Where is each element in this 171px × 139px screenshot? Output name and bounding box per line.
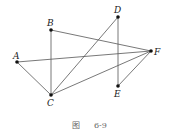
label-e: E [113, 89, 121, 99]
figure-caption: 图 6-9 [72, 121, 107, 130]
edge-e-f [118, 51, 151, 86]
vertex-b [49, 28, 53, 32]
edge-a-c [17, 62, 51, 95]
vertex-e [116, 84, 120, 88]
label-a: A [12, 51, 20, 61]
edge-c-d [51, 17, 118, 95]
label-d: D [113, 5, 121, 15]
caption-prefix: 图 [72, 121, 80, 130]
edges [17, 17, 151, 95]
label-f: F [153, 47, 161, 57]
vertex-d [116, 15, 120, 19]
label-b: B [46, 18, 54, 28]
vertex-c [49, 93, 53, 97]
edge-b-f [51, 30, 151, 51]
caption-number: 6-9 [94, 121, 107, 130]
graph-diagram: A B C D E F 图 6-9 [0, 0, 171, 139]
label-c: C [47, 98, 54, 108]
vertex-f [149, 49, 153, 53]
